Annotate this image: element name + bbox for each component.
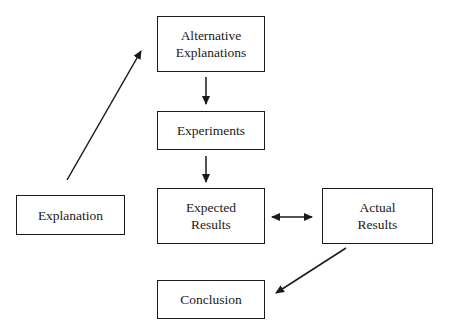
- node-conclusion: Conclusion: [157, 280, 265, 319]
- node-label: Experiments: [177, 122, 245, 139]
- node-label: Results: [186, 216, 236, 233]
- node-label: Explanation: [38, 207, 103, 224]
- node-label: Alternative: [176, 27, 247, 44]
- node-actual-results: Actual Results: [322, 188, 433, 244]
- node-label: Expected: [186, 199, 236, 216]
- arrow-explanation-to-alternative-explanations: [67, 51, 141, 180]
- node-experiments: Experiments: [157, 111, 265, 150]
- arrow-actual-results-to-conclusion: [276, 248, 346, 293]
- node-explanation: Explanation: [16, 195, 125, 235]
- node-label: Conclusion: [180, 291, 242, 308]
- node-alternative-explanations: Alternative Explanations: [157, 16, 265, 72]
- node-label: Actual: [358, 199, 398, 216]
- node-label: Results: [358, 216, 398, 233]
- node-expected-results: Expected Results: [157, 188, 265, 244]
- node-label: Explanations: [176, 44, 247, 61]
